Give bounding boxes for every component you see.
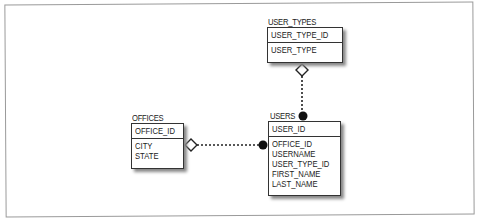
entity-title: USERS	[270, 111, 295, 121]
attribute-list: USER_TYPE	[268, 43, 342, 57]
attribute-list: OFFICE_ID USERNAME USER_TYPE_ID FIRST_NA…	[269, 137, 340, 191]
entity-box: OFFICE_ID CITY STATE	[131, 123, 184, 169]
primary-key-field: OFFICE_ID	[132, 124, 183, 139]
primary-key-field: USER_TYPE_ID	[268, 28, 342, 43]
entity-box: USER_TYPE_ID USER_TYPE	[267, 27, 343, 63]
entity-title: OFFICES	[132, 113, 163, 123]
diamond-icon	[296, 64, 308, 76]
diamond-icon	[185, 139, 197, 151]
entity-title: USER_TYPES	[268, 17, 316, 27]
filled-circle-icon	[299, 112, 308, 121]
attribute-list: CITY STATE	[132, 139, 183, 163]
relationship-lines	[0, 0, 479, 221]
entity-box: USER_ID OFFICE_ID USERNAME USER_TYPE_ID …	[268, 121, 341, 196]
filled-circle-icon	[259, 141, 268, 150]
primary-key-field: USER_ID	[269, 122, 340, 137]
